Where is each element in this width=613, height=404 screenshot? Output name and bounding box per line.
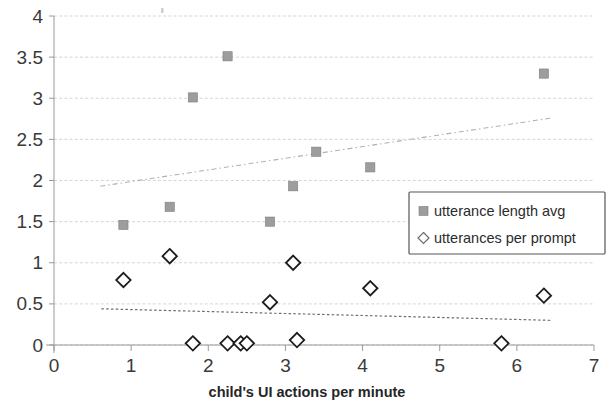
data-point-square: [366, 163, 375, 172]
legend-swatch-square-icon: [419, 207, 428, 216]
axis-lines: [46, 16, 594, 353]
y-tick-label: 0: [32, 335, 43, 356]
data-point-diamond: [537, 288, 551, 302]
data-point-square: [223, 52, 232, 61]
x-tick-label: 4: [357, 355, 368, 376]
data-point-square: [188, 93, 197, 102]
y-tick-label: 3: [32, 88, 43, 109]
y-tick-label: 3.5: [17, 47, 43, 68]
series-utterances-per-prompt-points: [116, 249, 551, 351]
legend-label-utterance-length-avg: utterance length avg: [434, 203, 565, 219]
x-axis-title: child's UI actions per minute: [209, 384, 406, 400]
data-point-diamond: [286, 256, 300, 270]
x-tick-label: 5: [434, 355, 445, 376]
data-point-square: [165, 202, 174, 211]
y-axis-tick-labels: 00.511.522.533.54: [17, 6, 44, 356]
scatter-chart: 00.511.522.533.54 01234567 child's UI ac…: [0, 0, 613, 404]
chart-legend: utterance length avg utterances per prom…: [409, 192, 605, 254]
trendline-utterance-length-avg: [100, 118, 551, 186]
x-tick-label: 7: [589, 355, 600, 376]
trendline-utterances-per-prompt: [102, 309, 552, 321]
y-tick-label: 1.5: [17, 211, 43, 232]
x-tick-label: 6: [512, 355, 523, 376]
x-tick-label: 2: [203, 355, 214, 376]
data-point-square: [265, 217, 274, 226]
x-tick-label: 0: [49, 355, 60, 376]
data-point-diamond: [263, 295, 277, 309]
x-tick-label: 3: [280, 355, 291, 376]
data-point-diamond: [494, 336, 508, 350]
y-tick-label: 1: [32, 252, 43, 273]
x-axis-tick-labels: 01234567: [49, 355, 600, 376]
x-tick-label: 1: [126, 355, 137, 376]
data-point-diamond: [363, 281, 377, 295]
gridlines: [54, 16, 594, 345]
legend-label-utterances-per-prompt: utterances per prompt: [434, 230, 576, 246]
tick-marks: [49, 16, 594, 351]
data-point-square: [312, 147, 321, 156]
y-tick-label: 0.5: [17, 293, 43, 314]
data-point-diamond: [163, 249, 177, 263]
data-point-square: [539, 69, 548, 78]
chart-canvas: 00.511.522.533.54 01234567 child's UI ac…: [0, 0, 613, 404]
data-point-square: [289, 182, 298, 191]
scan-artifact-speck: [161, 8, 164, 13]
y-tick-label: 2.5: [17, 129, 43, 150]
data-point-diamond: [186, 336, 200, 350]
y-tick-label: 2: [32, 170, 43, 191]
data-point-square: [119, 220, 128, 229]
data-point-diamond: [116, 273, 130, 287]
y-tick-label: 4: [32, 6, 43, 27]
